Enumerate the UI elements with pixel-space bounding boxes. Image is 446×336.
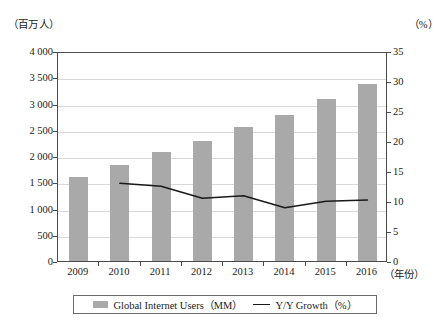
x-tick-label: 2015 (302, 266, 348, 277)
left-tick-label: 1 000 (29, 205, 53, 216)
left-tick-label: 3 000 (29, 100, 53, 111)
legend-item-users: Global Internet Users（MM） (93, 297, 242, 312)
right-tick-label: 5 (393, 227, 398, 238)
right-tick-label: 30 (393, 77, 404, 88)
figure-caption (0, 327, 446, 336)
left-tick-label: 3 500 (29, 73, 53, 84)
left-tick-label: 1 500 (29, 178, 53, 189)
legend-item-growth: Y/Y Growth（%） (253, 297, 356, 312)
left-tick-mark (53, 262, 57, 263)
right-tick-label: 10 (393, 197, 404, 208)
left-tick-label: 4 000 (29, 47, 53, 58)
left-axis-unit-label: （百万人） (8, 16, 59, 31)
bar-swatch-icon (93, 301, 108, 308)
left-tick-label: 2 500 (29, 126, 53, 137)
x-tick-label: 2010 (96, 266, 142, 277)
chart-figure: （百万人） （%） 05001 0001 5002 0002 5003 0003… (0, 0, 446, 336)
left-tick-label: 2 000 (29, 152, 53, 163)
x-tick-label: 2013 (220, 266, 266, 277)
legend-label-users: Global Internet Users（MM） (113, 297, 242, 312)
line-series-yy-growth (58, 53, 386, 261)
chart-legend: Global Internet Users（MM） Y/Y Growth（%） (73, 295, 377, 314)
x-tick-label: 2009 (55, 266, 101, 277)
line-swatch-icon (253, 304, 270, 305)
right-tick-label: 35 (393, 47, 404, 58)
plot-area (57, 52, 387, 262)
legend-label-growth: Y/Y Growth（%） (275, 297, 356, 312)
right-tick-label: 20 (393, 137, 404, 148)
x-tick-label: 2016 (343, 266, 389, 277)
x-axis-title: （年份） (384, 266, 424, 281)
right-tick-label: 25 (393, 107, 404, 118)
x-tick-label: 2014 (261, 266, 307, 277)
left-tick-label: 500 (37, 231, 53, 242)
right-axis-unit-label: （%） (409, 16, 438, 31)
right-tick-label: 15 (393, 167, 404, 178)
x-tick-label: 2012 (178, 266, 224, 277)
x-tick-label: 2011 (137, 266, 183, 277)
